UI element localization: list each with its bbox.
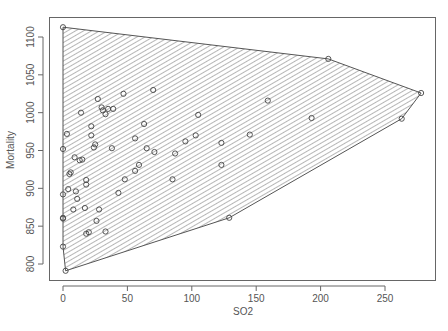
convex-hull-polygon: [63, 27, 421, 271]
y-tick-label: 800: [25, 255, 36, 272]
x-axis-label: SO2: [233, 306, 253, 317]
x-tick-label: 0: [60, 293, 66, 304]
y-tick-label: 1050: [25, 63, 36, 86]
x-tick-label: 250: [377, 293, 394, 304]
scatter-chart: 050100150200250 800850900950100010501100…: [0, 0, 448, 331]
x-axis: 050100150200250: [60, 286, 394, 304]
y-tick-label: 850: [25, 217, 36, 234]
y-axis-label: Mortality: [5, 131, 16, 169]
x-tick-label: 200: [312, 293, 329, 304]
y-axis: 800850900950100010501100: [25, 26, 43, 273]
x-tick-label: 50: [122, 293, 134, 304]
y-tick-label: 950: [25, 142, 36, 159]
x-tick-label: 150: [248, 293, 265, 304]
y-tick-label: 900: [25, 180, 36, 197]
y-tick-label: 1100: [25, 26, 36, 48]
y-tick-label: 1000: [25, 101, 36, 124]
x-tick-label: 100: [183, 293, 200, 304]
